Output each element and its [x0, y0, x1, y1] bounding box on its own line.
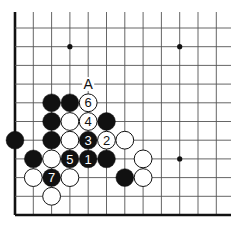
black-stone — [6, 131, 24, 149]
black-stone — [24, 150, 42, 168]
stone-disc — [24, 150, 42, 168]
stones: 6432517 — [6, 94, 152, 205]
black-stone — [98, 113, 116, 131]
white-stone — [61, 169, 79, 187]
move-number: 4 — [85, 114, 92, 129]
star-point — [177, 156, 182, 161]
white-stone-move-4: 4 — [79, 113, 97, 131]
white-stone — [116, 131, 134, 149]
black-stone-move-1: 1 — [79, 150, 97, 168]
stone-disc — [134, 150, 152, 168]
white-stone — [43, 187, 61, 205]
stone-disc — [134, 169, 152, 187]
stone-disc — [43, 187, 61, 205]
white-stone-move-6: 6 — [79, 94, 97, 112]
stone-disc — [61, 169, 79, 187]
stone-disc — [61, 113, 79, 131]
stone-disc — [43, 131, 61, 149]
stone-disc — [61, 131, 79, 149]
stone-disc — [61, 94, 79, 112]
stone-disc — [116, 169, 134, 187]
stone-disc — [98, 150, 116, 168]
black-stone — [116, 169, 134, 187]
move-number: 6 — [85, 95, 92, 110]
black-stone — [43, 113, 61, 131]
black-stone-move-3: 3 — [79, 131, 97, 149]
white-stone — [134, 150, 152, 168]
white-stone — [61, 113, 79, 131]
white-stone — [61, 131, 79, 149]
black-stone — [43, 94, 61, 112]
move-number: 5 — [66, 152, 73, 167]
board-markers: A — [82, 76, 94, 92]
black-stone-move-5: 5 — [61, 150, 79, 168]
black-stone — [43, 131, 61, 149]
white-stone — [24, 169, 42, 187]
move-number: 7 — [48, 170, 55, 185]
stone-disc — [24, 169, 42, 187]
black-stone — [98, 150, 116, 168]
move-number: 2 — [103, 133, 110, 148]
stone-disc — [6, 131, 24, 149]
star-point — [67, 44, 72, 49]
white-stone — [134, 169, 152, 187]
go-board-diagram: A 6432517 — [0, 0, 239, 225]
stone-disc — [43, 113, 61, 131]
black-stone — [61, 94, 79, 112]
stone-disc — [98, 113, 116, 131]
point-marker-label: A — [84, 76, 94, 92]
stone-disc — [116, 131, 134, 149]
star-point — [177, 44, 182, 49]
stone-disc — [43, 94, 61, 112]
white-stone — [43, 150, 61, 168]
white-stone-move-2: 2 — [98, 131, 116, 149]
move-number: 1 — [85, 152, 92, 167]
black-stone-move-7: 7 — [43, 169, 61, 187]
move-number: 3 — [85, 133, 92, 148]
stone-disc — [43, 150, 61, 168]
